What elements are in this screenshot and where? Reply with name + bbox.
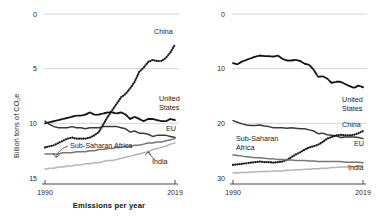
series-label-united-states-2: States [342, 104, 363, 113]
plot-area-right: 302010019902019UnitedStatesChinaEUSub-Sa… [192, 0, 383, 218]
x-axis-title-left: Emissions per year [44, 201, 174, 210]
series-line-united-states [233, 56, 363, 88]
y-tick-label: 10 [29, 120, 37, 127]
series-label-sub-saharan-africa-1: Sub-Saharan [236, 134, 278, 143]
series-label-india: India [152, 157, 168, 166]
series-label-sub-saharan-africa: Sub-Saharan Africa [70, 141, 132, 150]
series-label-united-states-1: United [159, 94, 180, 103]
y-tick-label: 0 [33, 11, 37, 18]
x-tick-label: 1990 [37, 189, 53, 196]
series-label-india: India [348, 163, 364, 172]
emissions-figure: 15105019902019ChinaUnitedStatesEUSub-Sah… [0, 0, 383, 218]
x-tick-label: 1990 [225, 189, 241, 196]
plot-area-left: 15105019902019ChinaUnitedStatesEUSub-Sah… [0, 0, 191, 218]
x-tick-label: 2019 [167, 189, 183, 196]
y-tick-label: 15 [29, 175, 37, 182]
series-label-eu: EU [166, 124, 176, 133]
series-label-united-states-1: United [342, 95, 363, 104]
y-tick-label: 20 [217, 120, 225, 127]
y-tick-label: 30 [217, 175, 225, 182]
y-axis-label-left: Billion tons of CO₂e [12, 94, 21, 158]
y-tick-label: 0 [221, 11, 225, 18]
series-label-united-states-2: States [159, 103, 180, 112]
chart-panel-emissions-per-person: 302010019902019UnitedStatesChinaEUSub-Sa… [192, 0, 383, 218]
y-tick-label: 10 [217, 65, 225, 72]
series-label-china: China [154, 27, 173, 36]
series-line-china [45, 45, 175, 148]
series-label-china: China [342, 120, 361, 129]
y-tick-label: 5 [33, 65, 37, 72]
series-line-india [233, 165, 363, 173]
leader-line [56, 146, 68, 157]
chart-panel-emissions-per-year: 15105019902019ChinaUnitedStatesEUSub-Sah… [0, 0, 191, 218]
series-label-sub-saharan-africa-2: Africa [236, 143, 254, 152]
x-tick-label: 2019 [355, 189, 371, 196]
series-label-eu: EU [354, 139, 364, 148]
